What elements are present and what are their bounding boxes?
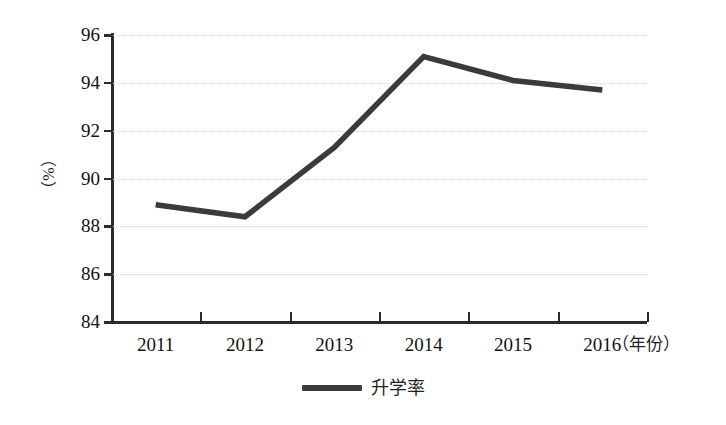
chart-legend: 升学率 — [0, 378, 726, 398]
y-tick-label: 84 — [56, 312, 100, 331]
y-tick-label: 90 — [56, 169, 100, 188]
x-tick-label: 2014 — [379, 334, 469, 356]
series-line-enrollment-rate — [111, 35, 647, 322]
y-tick-label: 86 — [56, 264, 100, 283]
y-tick-label: 96 — [56, 25, 100, 44]
line-chart-figure: （%） 96949290888684 201120122013201420152… — [0, 0, 726, 425]
x-tick-label: 2011 — [111, 334, 201, 356]
plot-area — [111, 35, 647, 322]
y-tick-label: 88 — [56, 216, 100, 235]
x-axis-unit-label: （年份） — [612, 334, 680, 356]
x-tick-label: 2012 — [200, 334, 290, 356]
y-tick-label: 92 — [56, 121, 100, 140]
x-tick-label: 2015 — [468, 334, 558, 356]
y-tick-label: 94 — [56, 73, 100, 92]
x-tick-label: 2013 — [289, 334, 379, 356]
legend-line-swatch — [302, 385, 362, 391]
legend-label: 升学率 — [371, 378, 425, 398]
x-tick-mark — [647, 312, 649, 322]
